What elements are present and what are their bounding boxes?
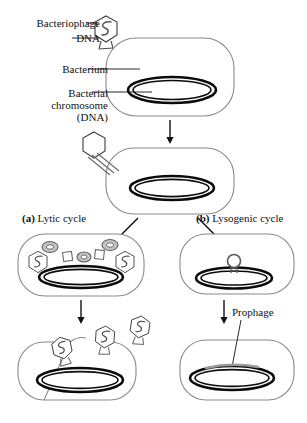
cell-lysogenic-integration — [180, 234, 294, 294]
phage-released — [128, 315, 150, 346]
cell-injection — [83, 132, 234, 214]
label-bacteriophage: Bacteriophage — [8, 18, 100, 30]
cell-lytic-assembly — [18, 234, 144, 296]
phage-part-ring — [102, 240, 118, 251]
phage-part-ring — [42, 242, 58, 253]
phage-part-ring — [77, 252, 91, 262]
label-bacterial-chromosome-line3: (DNA) — [8, 112, 108, 124]
bacterial-chromosome — [130, 176, 214, 200]
arrow-lytic-to-lysis — [77, 300, 84, 324]
label-prophage: Prophage — [232, 307, 274, 319]
cell-lysis — [18, 315, 151, 400]
label-lysogenic-cycle: (b) Lysogenic cycle — [196, 213, 283, 225]
phage-part-square — [94, 250, 104, 260]
cell-prophage — [180, 320, 294, 400]
label-lytic-cycle: (a) Lytic cycle — [22, 213, 86, 225]
bacterial-chromosome — [196, 268, 272, 289]
arrow-lysogenic-to-prophage — [220, 300, 227, 324]
bacterial-chromosome — [128, 77, 216, 103]
diagram-canvas: Bacteriophage DNA Bacterium Bacterial ch… — [0, 0, 307, 423]
label-dna: DNA — [8, 33, 100, 45]
lysogenic-cycle-text: Lysogenic cycle — [212, 212, 283, 224]
lytic-marker: (a) — [22, 212, 35, 224]
lysogenic-marker: (b) — [196, 212, 209, 224]
cell-attachment — [95, 16, 234, 116]
bacterial-chromosome — [190, 366, 274, 390]
bacterial-chromosome — [39, 266, 123, 288]
label-bacterium: Bacterium — [8, 64, 108, 76]
lytic-cycle-text: Lytic cycle — [38, 212, 87, 224]
phage-part-square — [62, 251, 72, 261]
lysis-break — [70, 338, 86, 343]
arrow-attachment-to-injection — [166, 120, 173, 144]
bacterial-chromosome — [37, 368, 123, 392]
